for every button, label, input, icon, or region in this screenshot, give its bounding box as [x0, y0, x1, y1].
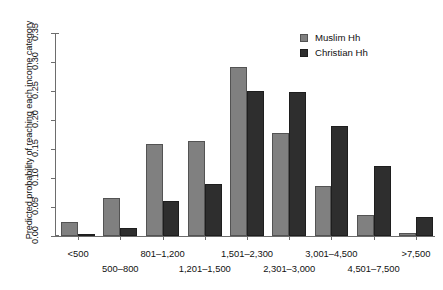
x-axis-tick-label: >7,500: [401, 248, 430, 259]
chart-legend: Muslim Hh Christian Hh: [300, 30, 368, 60]
y-axis-tick: [51, 207, 55, 208]
bar-muslim: [146, 144, 163, 236]
bar-muslim: [272, 133, 289, 236]
bar-muslim: [357, 215, 374, 236]
x-axis-tick: [78, 236, 79, 240]
bar-muslim: [61, 222, 78, 236]
x-axis-tick: [163, 236, 164, 240]
x-axis-tick-label: 801–1,200: [140, 248, 184, 259]
bar-muslim: [315, 186, 332, 236]
x-axis-tick-label: 2,301–3,000: [263, 263, 315, 274]
y-axis-tick-label: 0.15: [30, 136, 40, 160]
bar-christian: [416, 217, 433, 236]
bar-muslim: [230, 67, 247, 236]
plot-area: 0.000.050.100.150.200.250.300.35: [55, 28, 435, 236]
x-axis-line: [55, 236, 435, 237]
x-axis-tick: [247, 236, 248, 240]
y-axis-tick-label: 0.05: [30, 194, 40, 218]
y-axis-tick: [51, 91, 55, 92]
x-axis-tick: [120, 236, 121, 240]
y-axis-tick-label: 0.25: [30, 78, 40, 102]
y-axis-tick-label: 0.00: [30, 223, 40, 247]
bar-christian: [374, 166, 391, 236]
x-axis-tick-label: 1,201–1,500: [179, 263, 231, 274]
x-axis-tick-label: 3,001–4,500: [305, 248, 357, 259]
x-axis-tick: [205, 236, 206, 240]
y-axis-tick: [51, 178, 55, 179]
x-axis-tick: [289, 236, 290, 240]
bar-chart: Predicted probability of reaching each i…: [0, 0, 443, 290]
x-axis-tick: [416, 236, 417, 240]
x-axis-tick: [374, 236, 375, 240]
y-axis-line: [55, 33, 56, 236]
y-axis-tick-label: 0.35: [30, 20, 40, 44]
x-axis-tick-label: <500: [68, 248, 89, 259]
x-axis-tick-label: 1,501–2,300: [221, 248, 273, 259]
bar-christian: [289, 92, 306, 236]
bar-muslim: [399, 233, 416, 236]
y-axis-tick-label: 0.10: [30, 165, 40, 189]
bar-christian: [331, 126, 348, 236]
y-axis-tick: [51, 120, 55, 121]
bar-muslim: [188, 141, 205, 236]
x-axis-tick-label: 4,501–7,500: [348, 263, 400, 274]
legend-item-muslim: Muslim Hh: [300, 30, 368, 45]
legend-swatch-icon: [300, 49, 308, 57]
x-axis-tick-label: 500–800: [102, 263, 139, 274]
bar-christian: [205, 184, 222, 236]
bar-christian: [163, 201, 180, 236]
y-axis-tick-label: 0.30: [30, 49, 40, 73]
y-axis-tick: [51, 149, 55, 150]
y-axis-cap-top: [55, 33, 59, 34]
legend-label: Christian Hh: [315, 47, 368, 58]
legend-item-christian: Christian Hh: [300, 45, 368, 60]
y-axis-tick-label: 0.20: [30, 107, 40, 131]
bar-christian: [120, 228, 137, 236]
bar-muslim: [103, 198, 120, 236]
legend-swatch-icon: [300, 34, 308, 42]
y-axis-tick: [51, 62, 55, 63]
bar-christian: [78, 234, 95, 236]
bar-christian: [247, 91, 264, 236]
y-axis-tick: [51, 236, 55, 237]
y-axis-tick: [51, 33, 55, 34]
legend-label: Muslim Hh: [315, 32, 360, 43]
x-axis-tick: [331, 236, 332, 240]
